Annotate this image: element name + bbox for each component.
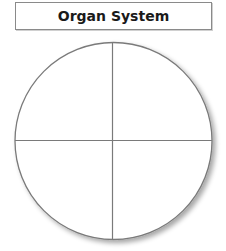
- quartered-circle-diagram: [0, 0, 226, 251]
